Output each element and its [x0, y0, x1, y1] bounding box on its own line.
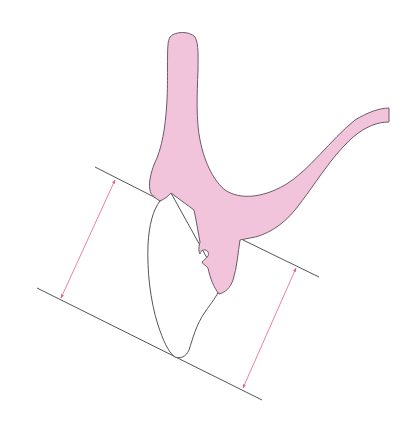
diagram-svg	[0, 0, 419, 424]
measurement-arrow-right	[243, 268, 296, 388]
reference-line-upper-right	[243, 240, 319, 277]
diagram-canvas	[0, 0, 419, 424]
measurement-arrow-left	[61, 180, 115, 298]
reference-line-lower	[37, 288, 262, 400]
